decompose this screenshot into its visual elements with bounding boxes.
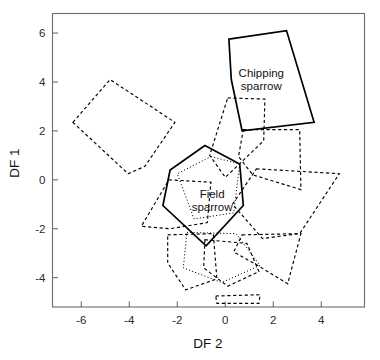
x-tick-label: 4 <box>318 314 325 326</box>
scatter-plot-svg: 6420-2-4 -6-4-2024 ChippingsparrowFields… <box>0 0 380 360</box>
x-tick-label: -6 <box>76 314 86 326</box>
y-tick-label: 0 <box>39 174 45 186</box>
group-label-line2: sparrow <box>241 80 283 92</box>
group-label-line1: Field <box>200 188 225 200</box>
group-label-line2: sparrow <box>192 201 234 213</box>
y-tick-label: 2 <box>39 125 45 137</box>
x-axis-title: DF 2 <box>193 336 222 351</box>
group-label: Chippingsparrow <box>239 67 284 92</box>
y-tick-label: 4 <box>39 76 46 88</box>
group-label-line1: Chipping <box>239 67 284 79</box>
y-axis-title: DF 1 <box>7 148 22 177</box>
x-tick-label: 0 <box>222 314 228 326</box>
y-tick-label: -2 <box>35 223 45 235</box>
x-tick-label: 2 <box>270 314 276 326</box>
x-tick-label: -4 <box>124 314 135 326</box>
y-tick-label: -4 <box>35 272 46 284</box>
y-tick-label: 6 <box>39 27 45 39</box>
x-tick-label: -2 <box>172 314 182 326</box>
chart-figure: 6420-2-4 -6-4-2024 ChippingsparrowFields… <box>0 0 380 360</box>
